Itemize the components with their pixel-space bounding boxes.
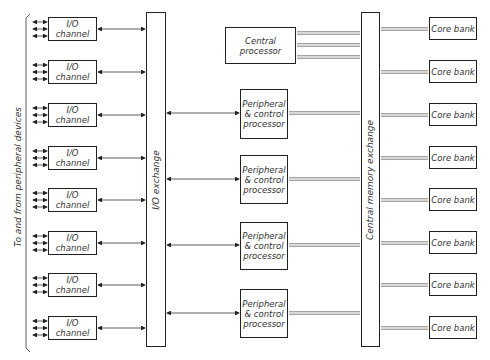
io-channel: I/O channel xyxy=(48,231,97,255)
peripheral-control-processor: Peripheral & control processor xyxy=(240,289,288,338)
peripheral-control-processor: Peripheral & control processor xyxy=(240,155,288,204)
io-channel: I/O channel xyxy=(48,273,97,297)
core-bank: Core bank xyxy=(429,17,477,40)
io-channel: I/O channel xyxy=(48,188,97,212)
io-channel: I/O channel xyxy=(48,17,97,41)
io-channel: I/O channel xyxy=(48,316,97,340)
peripheral-control-processor: Peripheral & control processor xyxy=(240,222,288,270)
io-channel: I/O channel xyxy=(48,146,97,170)
peripheral-devices-label: To and from peripheral devices xyxy=(13,97,23,257)
central-memory-exchange-label: Central memory exchange xyxy=(365,120,375,240)
io-exchange-label: I/O exchange xyxy=(151,130,161,230)
io-channel: I/O channel xyxy=(48,103,97,127)
core-bank: Core bank xyxy=(429,60,477,83)
core-bank: Core bank xyxy=(429,188,477,211)
core-bank: Core bank xyxy=(429,316,477,339)
central-processor: Central processor xyxy=(225,27,296,64)
io-channel: I/O channel xyxy=(48,60,97,84)
core-bank: Core bank xyxy=(429,273,477,296)
core-bank: Core bank xyxy=(429,103,477,126)
peripheral-control-processor: Peripheral & control processor xyxy=(240,89,288,139)
core-bank: Core bank xyxy=(429,146,477,169)
core-bank: Core bank xyxy=(429,231,477,254)
